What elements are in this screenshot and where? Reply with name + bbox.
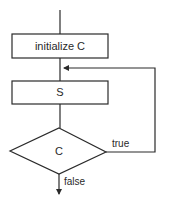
node-body-label: S bbox=[56, 86, 63, 98]
true-label: true bbox=[112, 138, 130, 149]
flowchart-canvas: initialize C S C true false bbox=[0, 0, 172, 204]
node-initialize-label: initialize C bbox=[35, 40, 85, 52]
node-condition-label: C bbox=[55, 145, 63, 157]
false-label: false bbox=[64, 176, 86, 187]
node-condition: C bbox=[10, 128, 106, 174]
node-body: S bbox=[12, 81, 108, 104]
node-initialize: initialize C bbox=[12, 34, 108, 58]
